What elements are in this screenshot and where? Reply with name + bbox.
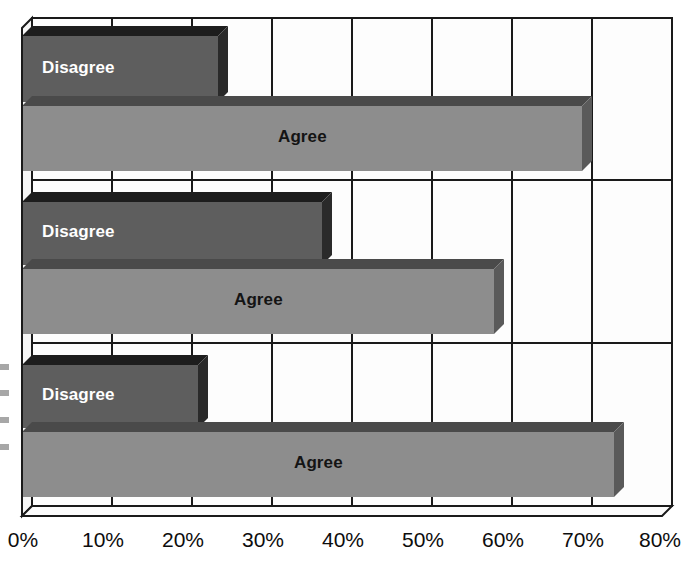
bar-group-2-disagree[interactable] xyxy=(22,192,332,265)
bar-front-face xyxy=(22,365,198,428)
bar-side-face xyxy=(494,259,504,334)
bar-group-2-agree[interactable] xyxy=(22,259,504,334)
x-tick-label-60: 60% xyxy=(482,528,524,552)
x-tick-label-0: 0% xyxy=(8,528,38,552)
bar-front-face xyxy=(22,106,582,171)
plot-floor xyxy=(22,506,672,516)
bar-group-1-disagree[interactable] xyxy=(22,26,228,102)
bar-side-face xyxy=(614,422,624,497)
x-tick-label-30: 30% xyxy=(242,528,284,552)
bar-front-face xyxy=(22,269,494,334)
bar-top-face xyxy=(22,355,208,365)
bar-front-face xyxy=(22,432,614,497)
x-tick-label-70: 70% xyxy=(562,528,604,552)
bar-top-face xyxy=(22,192,332,202)
bar-front-face xyxy=(22,36,218,102)
bar-group-3-agree[interactable] xyxy=(22,422,624,497)
bar-top-face xyxy=(22,96,592,106)
bar-side-face xyxy=(322,192,332,265)
bar-side-face xyxy=(198,355,208,428)
bar-side-face xyxy=(582,96,592,171)
x-tick-label-20: 20% xyxy=(162,528,204,552)
x-tick-label-80: 80% xyxy=(639,528,681,552)
bar-top-face xyxy=(22,259,504,269)
bar-top-face xyxy=(22,422,624,432)
bar-group-1-agree[interactable] xyxy=(22,96,592,171)
x-tick-label-40: 40% xyxy=(322,528,364,552)
x-tick-label-50: 50% xyxy=(402,528,444,552)
bar-top-face xyxy=(22,26,228,36)
bar-chart: Disagree Agree Disagree Agree Disagree A… xyxy=(0,0,683,564)
chart-canvas xyxy=(0,0,683,564)
bar-group-3-disagree[interactable] xyxy=(22,355,208,428)
bar-side-face xyxy=(218,26,228,102)
x-tick-label-10: 10% xyxy=(82,528,124,552)
bar-front-face xyxy=(22,202,322,265)
